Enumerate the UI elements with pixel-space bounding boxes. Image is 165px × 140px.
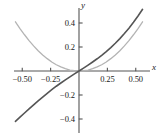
- y-axis-label: y: [81, 0, 85, 10]
- x-tick-label: −0.25: [41, 74, 60, 84]
- x-tick-label: 0.25: [100, 74, 114, 84]
- x-tick-label: 0.50: [129, 74, 143, 84]
- y-tick-label: −0.2: [60, 90, 75, 100]
- x-tick-label: −0.50: [13, 74, 32, 84]
- y-tick-label: 0.4: [65, 18, 75, 28]
- y-tick-label: 0.2: [65, 42, 75, 52]
- x-axis-label: x: [152, 62, 156, 72]
- y-tick-label: −0.4: [60, 114, 75, 124]
- chart-figure: −0.50−0.250.250.50 0.40.2−0.2−0.4 x y: [0, 0, 165, 140]
- plot-area: [0, 0, 165, 140]
